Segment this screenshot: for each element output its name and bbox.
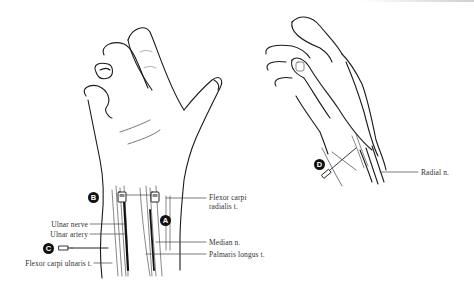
anatomical-figure: B A C D Ulnar nerve Ulnar artery Flexor …: [0, 0, 474, 286]
label-ulnar-artery: Ulnar artery: [50, 231, 88, 239]
label-flexor-carpi-radialis-line1: Flexor carpi: [209, 194, 247, 202]
marker-b: B: [88, 192, 99, 203]
needle-hub-b: [118, 192, 126, 202]
label-flexor-carpi-ulnaris: Flexor carpi ulnaris t.: [25, 260, 92, 268]
marker-a: A: [160, 215, 171, 226]
label-flexor-carpi-radialis-line2: radialis t.: [209, 203, 238, 211]
label-radial-nerve: Radial n.: [421, 169, 449, 177]
needle-hub-a: [151, 192, 159, 202]
needle-d: [322, 148, 356, 178]
label-ulnar-nerve: Ulnar nerve: [51, 221, 88, 229]
marker-c: C: [43, 243, 54, 254]
left-leader-lines: [90, 198, 206, 263]
right-hand-side-drawing: [266, 17, 386, 186]
label-palmaris-longus: Palmaris longus t.: [209, 251, 265, 259]
marker-d: D: [314, 159, 325, 170]
label-median-nerve: Median n.: [209, 239, 240, 247]
